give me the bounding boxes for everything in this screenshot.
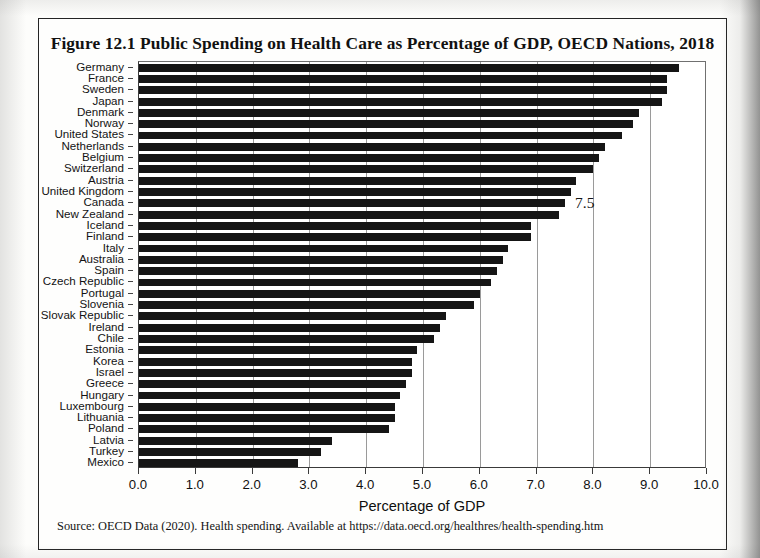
bar-row (139, 267, 707, 275)
bar (139, 459, 298, 467)
y-axis-label-united-states: United States (54, 128, 124, 139)
y-axis-label-canada: Canada (83, 196, 124, 207)
y-axis-tick (128, 383, 133, 384)
bar (139, 369, 412, 377)
y-axis-tick (128, 315, 133, 316)
x-axis-tick-label-5.0: 5.0 (413, 477, 431, 492)
x-axis-tick-labels: 0.01.02.03.04.05.06.07.08.09.010.0 (138, 477, 706, 497)
bar-row (139, 188, 707, 196)
y-axis-tick (128, 134, 133, 135)
y-axis-tick (128, 451, 133, 452)
bar (139, 199, 565, 207)
x-axis-tick-label-8.0: 8.0 (583, 477, 601, 492)
bar-row (139, 448, 707, 456)
bar (139, 425, 389, 433)
bar (139, 346, 417, 354)
bar-row (139, 199, 707, 207)
bar (139, 233, 531, 241)
bar-row (139, 301, 707, 309)
y-axis-tick (128, 361, 133, 362)
bar-row (139, 335, 707, 343)
y-axis-label-czech-republic: Czech Republic (43, 275, 124, 286)
bar (139, 165, 593, 173)
y-axis-tick (128, 395, 133, 396)
figure-frame: Figure 12.1 Public Spending on Health Ca… (38, 18, 727, 550)
bar (139, 120, 633, 128)
bar-row (139, 165, 707, 173)
y-axis-tick (128, 67, 133, 68)
x-axis-tick-8.0 (592, 468, 593, 474)
bar (139, 86, 667, 94)
y-axis-tick (128, 293, 133, 294)
bar (139, 290, 480, 298)
y-axis-label-poland: Poland (88, 422, 124, 433)
y-axis-tick (128, 248, 133, 249)
y-axis-tick (128, 270, 133, 271)
x-axis-tick-6.0 (479, 468, 480, 474)
bar (139, 358, 412, 366)
y-axis-label-estonia: Estonia (85, 343, 124, 354)
y-axis-tick (128, 462, 133, 463)
x-axis-tick-1.0 (195, 468, 196, 474)
bar-row (139, 120, 707, 128)
bar (139, 143, 605, 151)
bar (139, 222, 531, 230)
y-axis-tick (128, 225, 133, 226)
y-axis-tick (128, 428, 133, 429)
x-axis-tick-label-6.0: 6.0 (470, 477, 488, 492)
bar-row (139, 177, 707, 185)
bar (139, 301, 474, 309)
bar-row (139, 154, 707, 162)
bar-row (139, 233, 707, 241)
bar-row (139, 437, 707, 445)
y-axis-label-germany: Germany (76, 61, 124, 72)
bar-row (139, 425, 707, 433)
y-axis-tick (128, 304, 133, 305)
x-axis-tick-7.0 (536, 468, 537, 474)
bar (139, 448, 321, 456)
x-axis-tick-label-1.0: 1.0 (186, 477, 204, 492)
bar-row (139, 86, 707, 94)
x-axis-tick-label-4.0: 4.0 (356, 477, 374, 492)
y-axis-label-greece: Greece (86, 377, 124, 388)
y-axis-tick (128, 417, 133, 418)
y-axis-tick (128, 146, 133, 147)
bar-row (139, 459, 707, 467)
bar (139, 211, 559, 219)
y-axis-tick (128, 123, 133, 124)
bar (139, 380, 406, 388)
x-axis-title: Percentage of GDP (138, 498, 706, 514)
bar (139, 245, 508, 253)
y-axis-tick (128, 180, 133, 181)
y-axis-tick (128, 89, 133, 90)
x-axis-ticks (138, 468, 706, 475)
x-axis-tick-5.0 (422, 468, 423, 474)
bar-row (139, 64, 707, 72)
y-axis-label-slovak-republic: Slovak Republic (41, 309, 124, 320)
bar (139, 279, 491, 287)
bar (139, 437, 332, 445)
bar (139, 267, 497, 275)
y-axis-tick (128, 112, 133, 113)
bar (139, 403, 395, 411)
bar (139, 109, 639, 117)
bar (139, 154, 599, 162)
y-axis-category-labels: GermanyFranceSwedenJapanDenmarkNorwayUni… (39, 61, 133, 468)
bar-row (139, 392, 707, 400)
scanned-page: Figure 12.1 Public Spending on Health Ca… (0, 0, 760, 558)
y-axis-tick (128, 327, 133, 328)
x-axis-tick-label-10.0: 10.0 (693, 477, 719, 492)
y-axis-tick (128, 349, 133, 350)
bar-row (139, 380, 707, 388)
y-axis-label-italy: Italy (103, 242, 124, 253)
y-axis-tick (128, 281, 133, 282)
bar (139, 335, 434, 343)
y-axis-tick (128, 259, 133, 260)
bar-row (139, 414, 707, 422)
y-axis-tick (128, 157, 133, 158)
x-axis-tick-9.0 (649, 468, 650, 474)
bar-row (139, 358, 707, 366)
bar (139, 256, 503, 264)
x-axis-tick-label-3.0: 3.0 (299, 477, 317, 492)
x-axis-tick-label-2.0: 2.0 (242, 477, 260, 492)
